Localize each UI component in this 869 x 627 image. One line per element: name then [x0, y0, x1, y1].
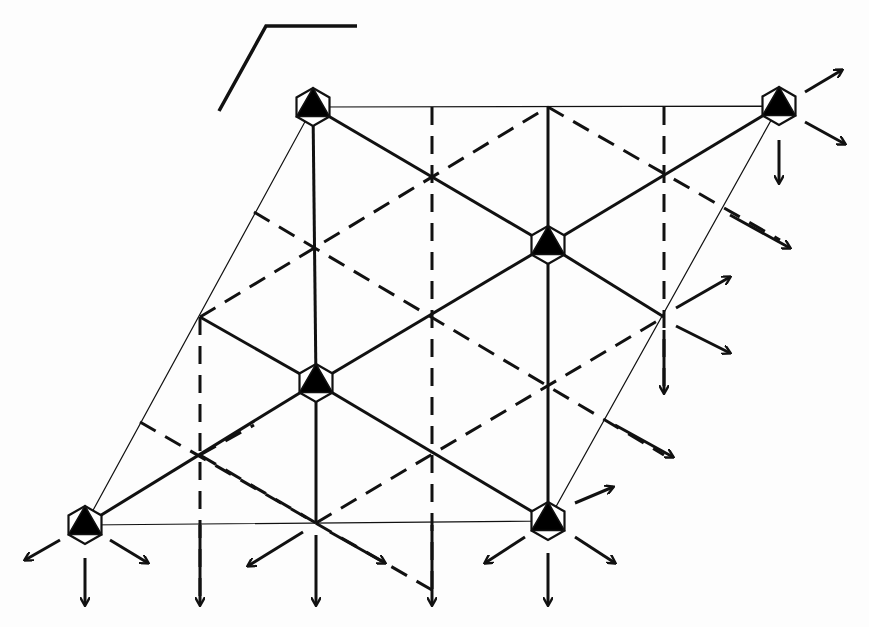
- arrow-icon: [676, 326, 730, 353]
- glide-lines: [140, 107, 780, 600]
- arrow-icon: [485, 537, 525, 563]
- arrow-icon: [676, 277, 730, 308]
- arrow-icon: [248, 532, 303, 566]
- arrow-icon: [615, 425, 673, 457]
- arrow-icon: [730, 215, 790, 248]
- threefold-axis-icon: [763, 87, 796, 125]
- arrow-icon: [805, 122, 845, 144]
- threefold-axis-icon: [532, 502, 565, 540]
- arrow-icon: [805, 70, 842, 92]
- mirror-line: [548, 245, 664, 317]
- corner-mark-line: [219, 26, 357, 111]
- threefold-axis-icon: [69, 506, 102, 544]
- corner-angle-mark: [219, 26, 357, 111]
- glide-line: [316, 317, 664, 523]
- arrow-icon: [575, 487, 613, 503]
- diagram-canvas: [0, 0, 869, 627]
- arrow-icon: [575, 537, 615, 563]
- mirror-line: [313, 107, 316, 383]
- symmetry-lattice-diagram: [0, 0, 869, 627]
- threefold-axis-icon: [532, 226, 565, 264]
- glide-line: [200, 107, 548, 317]
- arrow-icon: [110, 540, 148, 563]
- threefold-axis-icon: [297, 88, 330, 126]
- arrow-icon: [330, 532, 385, 563]
- threefold-axis-icon: [300, 364, 333, 402]
- arrow-icon: [25, 540, 60, 560]
